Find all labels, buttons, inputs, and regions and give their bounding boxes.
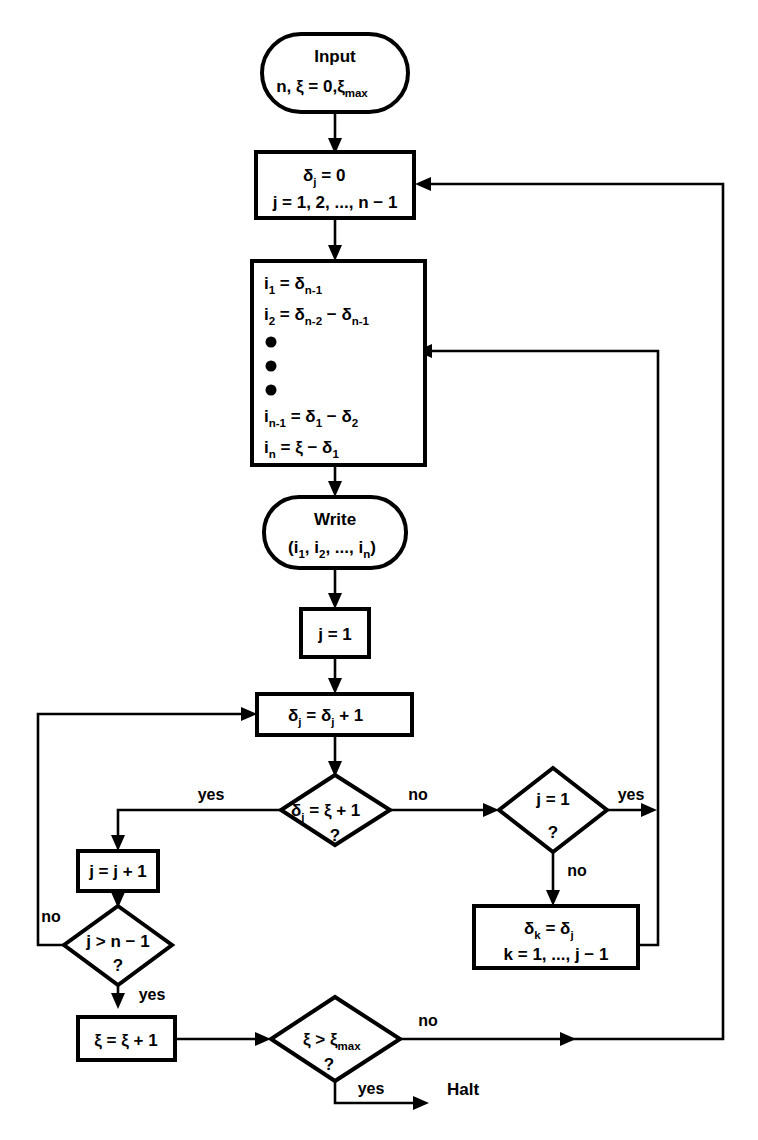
row2-tail: − δ xyxy=(322,305,352,324)
dec-ximax-a: ξ > ξ xyxy=(303,1030,338,1049)
edge-label-ximax-yes: yes xyxy=(358,1080,385,1097)
node-init-delta-line2: j = 1, 2, ..., n − 1 xyxy=(272,193,398,212)
node-init-delta-line1: δj = 0 xyxy=(303,166,345,188)
node-write xyxy=(264,497,406,568)
init-delta-rhs: = 0 xyxy=(317,166,346,185)
node-input-line2-sub: max xyxy=(345,87,369,99)
write-open: (i xyxy=(288,538,298,557)
row3-lhs-sub: n-1 xyxy=(269,417,287,429)
node-j-init-text: j = 1 xyxy=(317,625,352,644)
edge-label-jgt-no: no xyxy=(41,908,61,925)
edge-jeq1-yes xyxy=(607,803,657,817)
node-decision-j-eq-1-text: j = 1 xyxy=(535,790,570,809)
init-delta-symbol: δ xyxy=(303,166,313,185)
node-halt-label: Halt xyxy=(447,1080,479,1099)
row2-eq: = xyxy=(275,305,294,324)
edge-label-ximax-no: no xyxy=(418,1012,438,1029)
row4-eq: = xyxy=(276,438,295,457)
dec-ximax-a-sub: max xyxy=(338,1040,362,1052)
edge-deltainc-to-decision xyxy=(328,735,342,777)
edge-jgt-no-feedback xyxy=(38,707,257,945)
row1-eq: = xyxy=(275,274,294,293)
edge-decision-delta-no xyxy=(390,803,499,817)
node-input xyxy=(262,34,408,112)
row3-tail: − δ xyxy=(322,407,352,426)
edge-label-jeq1-yes: yes xyxy=(618,786,645,803)
delta-k-a: δ xyxy=(524,919,534,938)
delta-inc-a: δ xyxy=(288,706,298,725)
vertical-ellipsis-dot-3 xyxy=(266,385,277,396)
edge-compute-to-write xyxy=(328,465,342,497)
node-xi-inc-text: ξ = ξ + 1 xyxy=(94,1031,157,1050)
edge-write-to-jinit xyxy=(328,568,342,609)
node-decision-j-gt-text: j > n − 1 xyxy=(85,932,149,951)
node-decision-delta-question: ? xyxy=(330,826,340,845)
node-j-inc-text: j = j + 1 xyxy=(88,862,147,881)
node-input-line1: Input xyxy=(314,47,356,66)
write-close: ) xyxy=(370,538,376,557)
row4-rhs: ξ − δ xyxy=(295,438,332,457)
edge-xiinc-to-ximax xyxy=(175,1032,271,1046)
edge-label-delta-no: no xyxy=(408,786,428,803)
edge-label-jeq1-no: no xyxy=(567,862,587,879)
write-mid-2: , ..., i xyxy=(325,538,363,557)
node-delta-k-line1: δk = δj xyxy=(524,919,574,941)
write-sub-3: n xyxy=(363,548,370,560)
flowchart-canvas: Input n, ξ = 0,ξmax δj = 0 j = 1, 2, ...… xyxy=(0,0,758,1140)
edge-inner-feedback-to-compute xyxy=(416,344,658,810)
row1-rhs-sub: n-1 xyxy=(305,284,323,296)
edge-jinit-to-deltainc xyxy=(328,657,342,694)
delta-inc-b: = δ xyxy=(302,706,332,725)
row3-rhs: δ xyxy=(305,407,315,426)
node-decision-j-eq-1-question: ? xyxy=(548,823,558,842)
edge-init-to-compute xyxy=(328,218,342,261)
row2-rhs: δ xyxy=(295,305,305,324)
vertical-ellipsis-dot-2 xyxy=(266,361,277,372)
edge-label-delta-yes: yes xyxy=(198,786,225,803)
row2-rhs-sub: n-2 xyxy=(305,315,322,327)
write-mid-1: , i xyxy=(305,538,319,557)
dec-delta-a: δ xyxy=(291,801,301,820)
edge-jeq1-no xyxy=(546,852,560,906)
edge-jgt-yes xyxy=(111,985,125,1009)
node-write-line1: Write xyxy=(314,510,356,529)
row2-tail-sub: n-1 xyxy=(352,315,370,327)
row1-rhs: δ xyxy=(295,274,305,293)
edge-input-to-init xyxy=(328,112,342,154)
row4-rhs-sub: 1 xyxy=(332,448,339,460)
dec-delta-b: = ξ + 1 xyxy=(305,801,361,820)
compute-row-4: in = ξ − δ1 xyxy=(264,438,339,460)
delta-k-b: = δ xyxy=(541,919,571,938)
delta-inc-c: + 1 xyxy=(334,706,363,725)
delta-k-b-sub: j xyxy=(569,929,573,941)
node-decision-j-gt-question: ? xyxy=(113,956,123,975)
node-delta-k-line2: k = 1, ..., j − 1 xyxy=(504,945,609,964)
flowchart-svg: Input n, ξ = 0,ξmax δj = 0 j = 1, 2, ...… xyxy=(0,0,758,1140)
node-input-line2-main: n, ξ = 0,ξ xyxy=(276,77,345,96)
vertical-ellipsis-dot-1 xyxy=(266,337,277,348)
node-decision-xi-max-question: ? xyxy=(324,1055,334,1074)
edge-label-jgt-yes: yes xyxy=(139,986,166,1003)
row3-eq: = xyxy=(286,407,305,426)
edge-decision-delta-yes xyxy=(111,810,281,851)
row3-tail-sub: 2 xyxy=(352,417,358,429)
row4-lhs-sub: n xyxy=(269,448,276,460)
